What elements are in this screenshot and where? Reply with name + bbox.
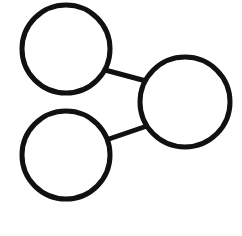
node-group xyxy=(22,5,230,199)
edge-top-left-to-right xyxy=(105,70,146,81)
node-top-left[interactable] xyxy=(22,5,110,93)
graph-diagram xyxy=(0,0,242,236)
node-bottom-left[interactable] xyxy=(22,111,110,199)
node-right[interactable] xyxy=(140,57,230,147)
edge-bottom-left-to-right xyxy=(106,126,147,140)
diagram-canvas xyxy=(0,0,242,236)
